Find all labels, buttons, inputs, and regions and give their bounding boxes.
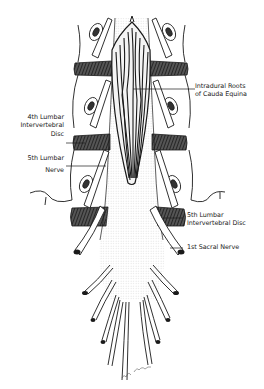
label-intradural-roots: Intradural Roots of Cauda Equina [195,83,247,98]
disc-upper-right [150,61,188,76]
label-4th-lumbar-disc: 4th Lumbar Intervertebral Disc [6,114,64,139]
label-line: 5th Lumbar [6,155,64,163]
label-5th-lumbar-disc: 5th Lumbar Intervertebral Disc [187,212,246,227]
label-line: 1st Sacral Nerve [187,244,239,252]
label-line: Intervertebral [6,122,64,130]
illustration-drawing [0,0,264,389]
disc-4th-right [152,134,187,150]
label-5th-lumbar-nerve: 5th Lumbar Nerve [6,155,64,174]
disc-4th-left [73,134,110,150]
label-line: Intervertebral Disc [187,220,246,228]
anatomy-illustration: Intradural Roots of Cauda Equina 4th Lum… [0,0,264,389]
label-1st-sacral-nerve: 1st Sacral Nerve [187,244,239,252]
disc-upper-left [74,61,112,76]
label-line: Nerve [6,167,64,175]
artist-signature [122,367,151,378]
label-line: Disc [6,131,64,139]
label-line: of Cauda Equina [195,91,247,99]
